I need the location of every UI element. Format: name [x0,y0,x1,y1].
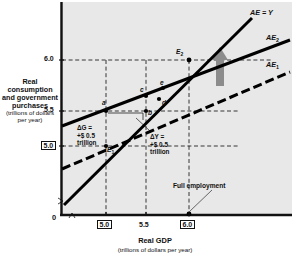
point-label-E2: E2 [176,48,183,57]
annotation-delta-y-line-1: ΔY = [150,133,186,141]
series-label-ae2: AE2 [266,33,279,43]
point-a-marker [104,109,108,113]
annotation-delta-y-line-2: +$ 0.5 [150,141,186,149]
point-d-marker [157,97,161,101]
point-E2-marker [187,58,192,63]
point-e-marker [161,86,165,90]
point-label-d: d [162,99,166,106]
point-label-E1-sub: 1 [111,149,114,155]
series-label-ae1-sub: 1 [276,64,279,70]
series-label-ae2-text: AE [266,33,276,42]
origin-label: 0 [52,213,56,222]
series-label-ae2-sub: 2 [276,37,279,43]
y-tick-label-5-0-boxed: 5.0 [41,141,56,150]
point-label-c: c [140,86,144,93]
y-axis-title: Real consumption and government purchase… [2,78,58,124]
annotation-full-employment: Full employment [173,182,225,189]
annotation-delta-g-line-2: +$ 0.5 [77,132,111,140]
annotation-delta-g-line-3: trillion [77,139,111,147]
point-label-a: a [102,99,106,106]
aggregate-expenditure-chart: Real consumption and government purchase… [0,0,294,259]
annotation-delta-y: ΔY = +$ 0.5 trillion [150,133,186,156]
point-label-E1: E1 [107,146,114,155]
annotation-delta-y-line-3: trillion [150,148,186,156]
point-label-e: e [160,79,164,86]
x-axis-title: Real GDP [95,236,215,245]
annotation-delta-g-line-1: ΔG = [77,124,111,132]
point-c-marker [144,94,148,98]
point-label-E2-sub: 2 [180,51,183,57]
y-tick-label-6-0: 6.0 [44,55,54,62]
point-label-b: b [148,109,152,116]
x-tick-label-5-0-boxed: 5.0 [97,220,112,229]
y-tick-label-5-5: 5.5 [44,106,54,113]
series-label-ae1: AE1 [266,60,279,70]
series-label-ae1-text: AE [266,60,276,69]
series-label-ae-equals-y: AE = Y [250,8,273,17]
x-tick-label-6-0-boxed: 6.0 [180,220,195,229]
annotation-delta-g: ΔG = +$ 0.5 trillion [77,124,111,147]
x-tick-label-5-5: 5.5 [139,221,149,228]
x-axis-title-sub: (trillions of dollars per year) [85,246,225,253]
